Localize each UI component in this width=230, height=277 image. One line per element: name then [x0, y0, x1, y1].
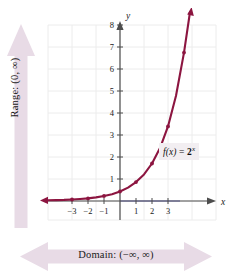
data-point	[134, 180, 138, 184]
y-tick-label: 2	[110, 152, 114, 162]
domain-annotation-label: Domain: (−∞, ∞)	[18, 249, 214, 260]
grid-vertical	[48, 25, 216, 220]
exponential-curve	[40, 8, 194, 204]
function-notation: f(x)	[163, 147, 177, 157]
y-tick-label: 5	[110, 86, 114, 96]
data-point	[86, 197, 90, 201]
grid-horizontal	[48, 25, 216, 220]
range-annotation-label: Range: (0, ∞)	[9, 28, 20, 148]
data-point	[70, 198, 74, 202]
y-tick-label: 7	[110, 42, 114, 52]
figure-exponential-graph: Range: (0, ∞) Domain: (−∞, ∞)	[0, 0, 230, 277]
x-tick-label: 3	[166, 206, 170, 216]
y-tick-label: 3	[110, 130, 114, 140]
coordinate-plot: −3 −2 −1 1 2 3 1 2 3 4 5 6 7 8 x y	[40, 8, 230, 236]
x-tick-labels: −3 −2 −1 1 2 3	[67, 206, 170, 216]
data-point	[166, 125, 170, 129]
y-tick-label: 1	[110, 174, 114, 184]
data-point	[150, 162, 154, 166]
y-axis-label: y	[125, 11, 131, 21]
x-tick-label: −2	[83, 206, 92, 216]
x-tick-label: −1	[99, 206, 108, 216]
equals-sign: =	[177, 147, 187, 157]
y-tick-label: 6	[110, 64, 114, 74]
data-point	[102, 194, 106, 198]
y-tick-labels: 1 2 3 4 5 6 7 8	[110, 20, 115, 184]
y-tick-label: 8	[110, 20, 114, 30]
function-equation-label: f(x) = 2x	[159, 143, 199, 160]
x-axis-label: x	[220, 197, 226, 207]
x-tick-label: −3	[67, 206, 76, 216]
x-tick-label: 2	[150, 206, 154, 216]
x-tick-label: 1	[134, 206, 138, 216]
data-point	[118, 190, 122, 194]
data-point	[182, 51, 186, 55]
function-exponent: x	[192, 145, 195, 153]
